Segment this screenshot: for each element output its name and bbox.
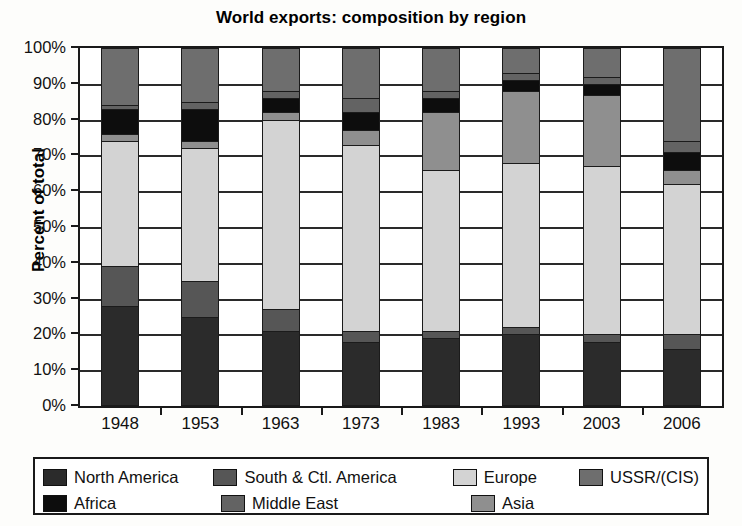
legend-item[interactable]: USSR/(CIS) (579, 468, 699, 487)
legend-item[interactable]: South & Ctl. America (213, 468, 452, 487)
bar-segment[interactable] (181, 148, 219, 280)
bar-segment[interactable] (502, 73, 540, 80)
gridline (80, 191, 722, 193)
bar-segment[interactable] (262, 120, 300, 310)
bar-segment[interactable] (583, 334, 621, 341)
bar-segment[interactable] (101, 306, 139, 406)
x-tick-label: 2003 (562, 414, 642, 434)
bar-segment[interactable] (181, 317, 219, 407)
x-tick-label: 1993 (481, 414, 561, 434)
bar-segment[interactable] (502, 80, 540, 91)
bar-segment[interactable] (422, 331, 460, 338)
plot-area (78, 46, 724, 408)
bar-2003[interactable] (583, 48, 621, 406)
legend-item[interactable]: Asia (471, 494, 603, 513)
y-tick-mark (71, 189, 78, 191)
y-tick-label: 10% (0, 360, 66, 379)
bar-segment[interactable] (342, 130, 380, 144)
bar-segment[interactable] (502, 334, 540, 406)
bar-segment[interactable] (663, 349, 701, 406)
gridline (80, 299, 722, 301)
bar-segment[interactable] (583, 342, 621, 406)
gridline (80, 120, 722, 122)
bar-segment[interactable] (663, 184, 701, 334)
legend-swatch-icon (221, 495, 245, 512)
legend-item[interactable]: Middle East (221, 494, 471, 513)
bar-segment[interactable] (181, 109, 219, 141)
bar-segment[interactable] (101, 105, 139, 109)
bar-segment[interactable] (342, 98, 380, 112)
bar-segment[interactable] (422, 338, 460, 406)
bar-segment[interactable] (262, 112, 300, 119)
bar-segment[interactable] (583, 166, 621, 334)
y-tick-label: 70% (0, 145, 66, 164)
bar-1973[interactable] (342, 48, 380, 406)
bar-segment[interactable] (663, 48, 701, 141)
bar-1948[interactable] (101, 48, 139, 406)
y-tick-mark (71, 153, 78, 155)
bar-segment[interactable] (422, 112, 460, 169)
bar-segment[interactable] (583, 77, 621, 84)
y-tick-mark (71, 404, 78, 406)
bar-segment[interactable] (181, 102, 219, 109)
bar-segment[interactable] (502, 163, 540, 328)
bar-segment[interactable] (262, 91, 300, 98)
bar-segment[interactable] (342, 112, 380, 130)
bar-1953[interactable] (181, 48, 219, 406)
bar-segment[interactable] (663, 170, 701, 184)
x-tick-label: 1963 (241, 414, 321, 434)
bar-segment[interactable] (502, 327, 540, 334)
bar-1963[interactable] (262, 48, 300, 406)
y-tick-label: 30% (0, 289, 66, 308)
bar-segment[interactable] (342, 145, 380, 331)
bar-1983[interactable] (422, 48, 460, 406)
x-tick-mark (562, 408, 564, 415)
bar-segment[interactable] (101, 48, 139, 105)
bar-segment[interactable] (342, 331, 380, 342)
bar-2006[interactable] (663, 48, 701, 406)
x-tick-label: 1973 (321, 414, 401, 434)
bar-segment[interactable] (422, 98, 460, 112)
bar-segment[interactable] (663, 334, 701, 348)
bar-segment[interactable] (583, 95, 621, 167)
legend-label: Europe (484, 468, 537, 487)
chart-title: World exports: composition by region (0, 8, 742, 28)
bar-segment[interactable] (583, 48, 621, 77)
bar-segment[interactable] (583, 84, 621, 95)
bar-1993[interactable] (502, 48, 540, 406)
bar-segment[interactable] (422, 48, 460, 91)
bar-segment[interactable] (342, 48, 380, 98)
gridline (80, 263, 722, 265)
bar-segment[interactable] (181, 281, 219, 317)
x-tick-mark (401, 408, 403, 415)
bar-segment[interactable] (262, 98, 300, 112)
bar-segment[interactable] (663, 152, 701, 170)
y-tick-mark (71, 225, 78, 227)
bar-segment[interactable] (502, 91, 540, 163)
bar-segment[interactable] (262, 309, 300, 330)
bar-segment[interactable] (101, 134, 139, 141)
bar-segment[interactable] (422, 170, 460, 331)
bar-segment[interactable] (422, 91, 460, 98)
bar-segment[interactable] (262, 48, 300, 91)
x-tick-label: 2006 (642, 414, 722, 434)
legend-item[interactable]: Africa (43, 494, 221, 513)
legend-item[interactable]: North America (43, 468, 213, 487)
bar-segment[interactable] (663, 141, 701, 152)
legend-item[interactable]: Europe (453, 468, 579, 487)
bar-segment[interactable] (101, 109, 139, 134)
bar-segment[interactable] (342, 342, 380, 406)
x-tick-label: 1953 (160, 414, 240, 434)
legend-label: Africa (74, 494, 116, 513)
legend-label: Middle East (252, 494, 338, 513)
x-tick-mark (241, 408, 243, 415)
gridline (80, 155, 722, 157)
x-tick-label: 1983 (401, 414, 481, 434)
bar-segment[interactable] (181, 48, 219, 102)
bar-segment[interactable] (502, 48, 540, 73)
x-tick-mark (321, 408, 323, 415)
bar-segment[interactable] (101, 141, 139, 266)
bar-segment[interactable] (101, 266, 139, 305)
bar-segment[interactable] (262, 331, 300, 406)
bar-segment[interactable] (181, 141, 219, 148)
